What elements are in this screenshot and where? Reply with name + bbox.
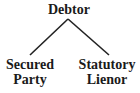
node-label-line1: Secured [0,57,60,72]
edge-debtor-to-statutory-lienor [68,19,109,55]
node-label-line2: Lienor [76,72,138,87]
node-label-line1: Statutory [76,57,138,72]
node-label: Debtor [48,2,90,17]
node-statutory-lienor: Statutory Lienor [76,57,138,87]
node-secured-party: Secured Party [0,57,60,87]
node-debtor: Debtor [40,2,98,17]
node-label-line2: Party [0,72,60,87]
edge-debtor-to-secured-party [30,19,68,55]
